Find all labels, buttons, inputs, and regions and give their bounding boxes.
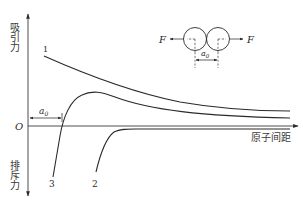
force-left-label: F: [158, 34, 167, 45]
force-right-label: F: [246, 34, 255, 45]
interatomic-force-diagram: O 吸引力 排斥力 原子间距 1 3 2 a0 F F a0: [0, 0, 303, 206]
curve-1: [44, 56, 290, 111]
origin-label: O: [15, 121, 23, 132]
x-axis-label: 原子间距: [251, 131, 291, 143]
curve-2-label: 2: [92, 179, 98, 189]
repulsion-label: 排斥力: [9, 159, 20, 191]
a0-label: a0: [39, 106, 48, 117]
curve-3-label: 3: [49, 179, 55, 189]
curve-1-label: 1: [43, 45, 48, 54]
inset-a0-label: a0: [201, 49, 210, 59]
atom-pair-inset: F F a0: [158, 28, 255, 69]
attraction-label: 吸引力: [9, 22, 20, 53]
